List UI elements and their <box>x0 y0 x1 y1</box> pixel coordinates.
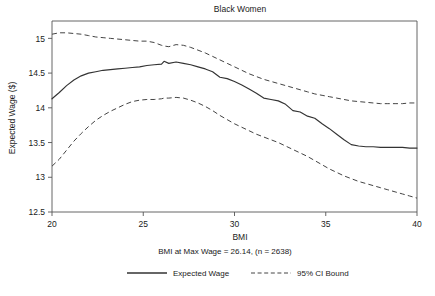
y-tick-label: 13.5 <box>28 138 45 148</box>
y-tick-label: 15 <box>36 34 46 44</box>
plot-border <box>52 21 417 212</box>
page-bleed-strip <box>0 290 435 296</box>
series-line-ci-lower <box>52 97 417 198</box>
x-tick-label: 30 <box>230 219 240 229</box>
y-axis-title: Expected Wage ($) <box>7 82 17 155</box>
chart-legend: Expected Wage95% CI Bound <box>127 269 349 278</box>
plot-frame <box>52 21 417 212</box>
legend-label: 95% CI Bound <box>297 269 349 278</box>
x-tick-label: 20 <box>47 219 57 229</box>
legend-label: Expected Wage <box>173 269 230 278</box>
chart-figure: Black Women 12.51313.51414.515 202530354… <box>0 0 435 296</box>
x-axis-title: BMI <box>232 232 247 242</box>
chart-title: Black Women <box>214 4 267 14</box>
expected-wage-vs-bmi-chart: Black Women 12.51313.51414.515 202530354… <box>0 0 435 296</box>
chart-subtitle-note: BMI at Max Wage = 26.14, (n = 2638) <box>158 247 292 256</box>
y-tick-label: 13 <box>36 172 46 182</box>
y-tick-label: 14.5 <box>28 68 45 78</box>
x-tick-label: 25 <box>139 219 149 229</box>
chart-series <box>52 33 417 198</box>
x-tick-label: 35 <box>321 219 331 229</box>
series-line-expected-wage <box>52 61 417 148</box>
series-line-ci-upper <box>52 33 417 104</box>
x-axis-tick-labels: 2025303540 <box>47 219 422 229</box>
x-tick-label: 40 <box>412 219 422 229</box>
axis-ticks <box>48 38 417 216</box>
y-axis-tick-labels: 12.51313.51414.515 <box>28 34 45 218</box>
y-tick-label: 12.5 <box>28 207 45 217</box>
y-tick-label: 14 <box>36 103 46 113</box>
